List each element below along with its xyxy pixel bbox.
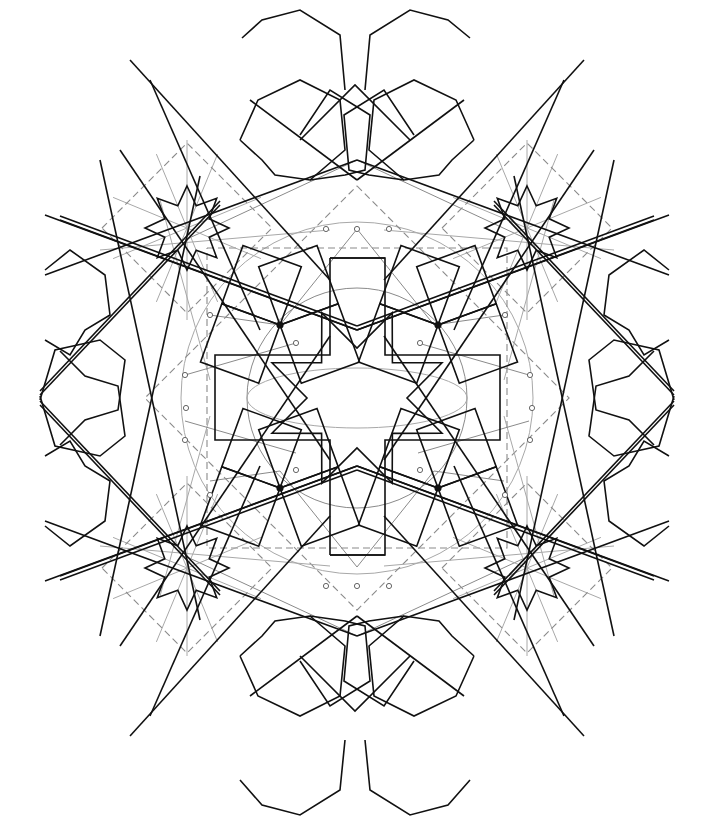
central-star-outline (272, 313, 442, 483)
interlace-line (40, 205, 220, 395)
construction-node-filled (276, 484, 283, 491)
construction-node-open (182, 372, 187, 377)
side-petal-polygon (40, 351, 125, 456)
interlace-line (494, 201, 674, 391)
petal-polygon (369, 80, 474, 180)
petal-polygon (369, 616, 474, 716)
construction-node-filled (276, 321, 283, 328)
petal-square (222, 409, 301, 489)
top-petal (365, 10, 470, 90)
bottom-petal (240, 740, 345, 815)
petal-square (359, 467, 439, 547)
petal-square (259, 246, 339, 326)
interlace-line (494, 405, 674, 595)
dashed-guide-square (207, 248, 507, 548)
guide-line (357, 471, 434, 567)
construction-node-open (293, 340, 298, 345)
guide-ellipse-horizontal (247, 368, 467, 428)
guide-line (434, 315, 504, 325)
construction-node-open (417, 340, 422, 345)
interlace-line (40, 201, 220, 391)
construction-node-open (502, 492, 507, 497)
construction-node-open (502, 312, 507, 317)
construction-guides (100, 140, 614, 656)
construction-node-open (354, 226, 359, 231)
construction-node-open (529, 405, 534, 410)
construction-node-open (207, 492, 212, 497)
petal-polygon (344, 90, 414, 180)
petal-square (280, 467, 360, 547)
interlace-line (40, 405, 220, 595)
construction-node-open (527, 372, 532, 377)
construction-node-open (386, 583, 391, 588)
construction-node-filled (434, 321, 441, 328)
interlace-line (60, 216, 357, 326)
construction-node-open (293, 467, 298, 472)
interlace-line (494, 401, 674, 591)
pattern-lines (40, 10, 674, 815)
interlace-line (357, 216, 654, 326)
top-petal (242, 10, 345, 90)
construction-node-open (323, 226, 328, 231)
construction-node-open (527, 437, 532, 442)
interlace-line (60, 470, 357, 580)
outer-guide-circle (181, 222, 533, 574)
construction-node-open (323, 583, 328, 588)
top-apex (300, 85, 410, 140)
interlace-line (40, 401, 220, 591)
guide-line (210, 315, 280, 325)
petal-polygon (344, 616, 414, 706)
side-petal-polygon (40, 340, 125, 445)
petal-polygon (240, 80, 345, 180)
petal-polygon (300, 616, 370, 706)
side-petal-polygon (589, 351, 674, 456)
side-petal-polygon (589, 340, 674, 445)
petal-square (259, 409, 339, 489)
interlace-line (357, 470, 654, 580)
construction-node-open (182, 437, 187, 442)
geometric-pattern-drawing (0, 0, 702, 825)
construction-node-open (183, 405, 188, 410)
dashed-guide-square (145, 186, 569, 610)
construction-node-open (207, 312, 212, 317)
petal-square (438, 467, 518, 547)
interlace-line (494, 205, 674, 395)
construction-node-filled (434, 484, 441, 491)
guide-line (357, 229, 434, 325)
construction-node-open (386, 226, 391, 231)
petal-polygon (300, 90, 370, 180)
construction-node-open (354, 583, 359, 588)
bottom-petal (365, 740, 470, 815)
construction-node-open (417, 467, 422, 472)
petal-polygon (240, 616, 345, 716)
bottom-apex (300, 656, 410, 711)
